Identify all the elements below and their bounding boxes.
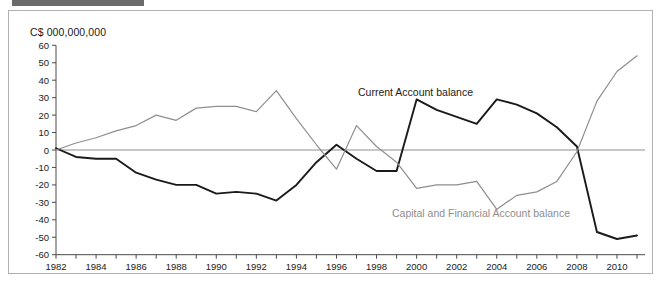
y-axis-tick-label: 10 [38,127,49,138]
x-axis-tick-label: 1990 [206,261,227,272]
x-axis-tick-label: 1996 [326,261,347,272]
x-axis-tick-label: 1994 [286,261,307,272]
x-axis-tick-label: 2004 [486,261,507,272]
x-axis-tick-label: 2010 [606,261,627,272]
x-axis-tick-label: 2008 [566,261,587,272]
x-axis-tick-label: 2002 [446,261,467,272]
series-line-capital-financial-account [56,56,637,210]
x-axis-tick-label: 1986 [126,261,147,272]
series-label-current-account: Current Account balance [358,86,473,98]
y-axis-tick-label: 0 [44,145,49,156]
x-axis-tick-label: 1982 [45,261,66,272]
y-axis-tick-label: 50 [38,57,49,68]
y-axis-tick-label: 30 [38,92,49,103]
x-axis-tick-label: 1988 [166,261,187,272]
y-axis-tick-label: 20 [38,110,49,121]
y-axis-tick-label: 40 [38,75,49,86]
y-axis-tick-label: 60 [38,40,49,51]
series-label-capital-financial-account: Capital and Financial Account balance [392,207,570,219]
y-axis-tick-label: -60 [35,249,49,260]
x-axis-tick-label: 1998 [366,261,387,272]
y-axis-tick-label: -40 [35,214,49,225]
chart-page: C$ 000,000,000 6050403020100-10-20-30-40… [0,0,661,289]
x-axis-tick-label: 1992 [246,261,267,272]
line-chart-plot: 6050403020100-10-20-30-40-50-60198219841… [0,0,661,289]
y-axis-tick-label: -30 [35,197,49,208]
y-axis-tick-label: -10 [35,162,49,173]
x-axis-tick-label: 2006 [526,261,547,272]
x-axis-tick-label: 1984 [85,261,106,272]
y-axis-tick-label: -20 [35,179,49,190]
y-axis-tick-label: -50 [35,232,49,243]
x-axis-tick-label: 2000 [406,261,427,272]
